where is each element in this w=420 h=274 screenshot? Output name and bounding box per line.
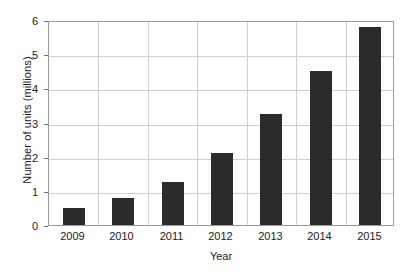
gridline-vertical — [296, 22, 297, 225]
gridline-vertical — [148, 22, 149, 225]
x-tick-label-2009: 2009 — [48, 231, 97, 242]
bar-2013 — [260, 114, 282, 225]
y-tick-label-5: 5 — [2, 50, 38, 61]
y-tick-mark — [44, 21, 48, 22]
bar-2010 — [112, 198, 134, 225]
y-tick-mark — [44, 55, 48, 56]
y-tick-label-0: 0 — [2, 221, 38, 232]
gridline-horizontal — [49, 56, 393, 57]
gridline-vertical — [247, 22, 248, 225]
y-tick-mark — [44, 89, 48, 90]
x-tick-label-2015: 2015 — [345, 231, 394, 242]
gridline-vertical — [98, 22, 99, 225]
y-tick-label-3: 3 — [2, 119, 38, 130]
y-tick-mark — [44, 158, 48, 159]
bar-chart: Number of units (millions) 0123456 20092… — [0, 0, 420, 274]
bar-2014 — [310, 71, 332, 225]
y-tick-mark — [44, 192, 48, 193]
y-tick-label-2: 2 — [2, 153, 38, 164]
y-tick-label-1: 1 — [2, 187, 38, 198]
gridline-horizontal — [49, 125, 393, 126]
x-tick-label-2012: 2012 — [196, 231, 245, 242]
plot-area — [48, 21, 394, 226]
x-tick-label-2011: 2011 — [147, 231, 196, 242]
gridline-vertical — [197, 22, 198, 225]
bar-2009 — [63, 208, 85, 225]
x-tick-label-2013: 2013 — [246, 231, 295, 242]
y-tick-label-6: 6 — [2, 16, 38, 27]
gridline-vertical — [346, 22, 347, 225]
gridline-horizontal — [49, 90, 393, 91]
bar-2015 — [359, 27, 381, 225]
x-axis-title: Year — [48, 250, 394, 262]
y-tick-label-4: 4 — [2, 84, 38, 95]
bar-2012 — [211, 153, 233, 225]
x-tick-label-2014: 2014 — [295, 231, 344, 242]
y-tick-mark — [44, 226, 48, 227]
x-tick-label-2010: 2010 — [97, 231, 146, 242]
y-tick-mark — [44, 124, 48, 125]
bar-2011 — [162, 182, 184, 225]
